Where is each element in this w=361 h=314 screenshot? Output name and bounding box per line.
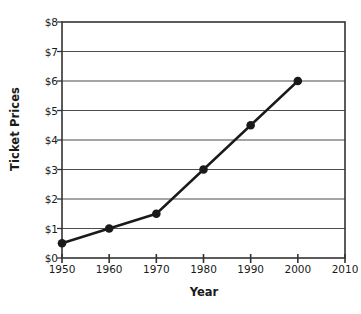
ticket-prices-line-chart: Ticket Prices $0$1$2$3$4$5$6$7$8 1950196… — [0, 0, 361, 314]
x-axis-title: Year — [62, 285, 346, 299]
plot-area — [0, 0, 361, 314]
data-point — [199, 165, 208, 174]
data-point — [246, 121, 255, 130]
data-point — [152, 209, 161, 218]
data-point — [105, 224, 114, 233]
data-point — [294, 77, 303, 86]
data-point — [58, 239, 67, 248]
